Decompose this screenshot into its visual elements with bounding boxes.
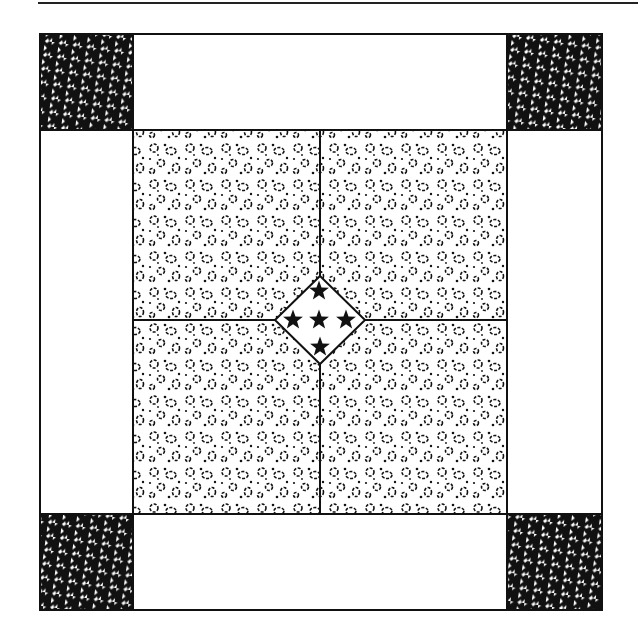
corner-square-top-right (507, 34, 602, 130)
side-strip-top (133, 34, 507, 130)
side-strip-right (507, 130, 602, 514)
side-strip-bottom (133, 514, 507, 610)
corner-square-bottom-right (507, 514, 602, 610)
quilt-block (39, 33, 603, 611)
top-rule-line (38, 2, 638, 4)
side-strip-left (40, 130, 133, 514)
corner-square-top-left (40, 34, 133, 130)
corner-square-bottom-left (40, 514, 133, 610)
